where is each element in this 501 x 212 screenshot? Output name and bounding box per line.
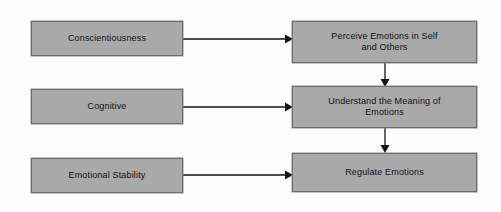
node-emotional-stability[interactable]: Emotional Stability xyxy=(31,158,183,193)
node-perceive-emotions[interactable]: Perceive Emotions in Self and Others xyxy=(292,21,477,63)
arrow-conscientiousness-to-perceive xyxy=(183,35,293,44)
diagram-canvas: Conscientiousness Cognitive Emotional St… xyxy=(0,0,501,212)
arrow-emotional-stability-to-regulate xyxy=(183,171,293,180)
arrow-understand-to-regulate xyxy=(381,128,390,153)
node-conscientiousness[interactable]: Conscientiousness xyxy=(31,21,183,56)
arrow-perceive-to-understand xyxy=(381,63,390,87)
node-regulate-emotions[interactable]: Regulate Emotions xyxy=(292,153,477,192)
arrow-cognitive-to-understand xyxy=(183,103,293,112)
node-cognitive[interactable]: Cognitive xyxy=(31,89,183,124)
node-understand-meaning[interactable]: Understand the Meaning of Emotions xyxy=(292,86,477,128)
